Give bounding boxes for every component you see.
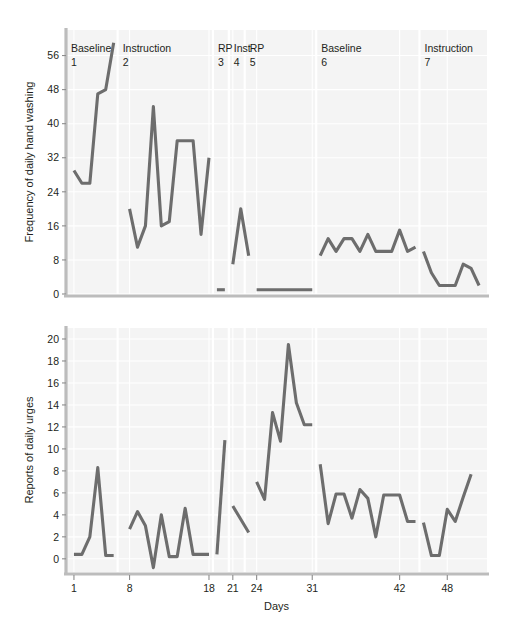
chart-panel-daily-urges: 02468101214161820Reports of daily urges1…	[23, 326, 489, 612]
phase-label-name: Baseline	[321, 42, 361, 54]
y-tick-label: 0	[53, 288, 59, 300]
y-tick-label: 10	[47, 443, 59, 455]
phase-label-number: 3	[218, 56, 224, 68]
y-axis-title: Reports of daily urges	[23, 396, 35, 503]
phase-label-name: Instruction	[424, 42, 473, 54]
chart-panel-hand-washing: 08162432404856Frequency of daily hand wa…	[23, 28, 489, 300]
x-tick-label: 24	[251, 582, 263, 594]
y-tick-label: 8	[53, 465, 59, 477]
phase-label-number: 7	[424, 56, 430, 68]
y-tick-label: 6	[53, 487, 59, 499]
y-tick-label: 14	[47, 399, 59, 411]
x-tick-label: 1	[71, 582, 77, 594]
phase-label-number: 6	[321, 56, 327, 68]
x-tick-label: 31	[306, 582, 318, 594]
y-tick-label: 8	[53, 254, 59, 266]
phase-label-name: RP	[250, 42, 265, 54]
y-tick-label: 16	[47, 377, 59, 389]
x-tick-label: 48	[441, 582, 453, 594]
y-tick-label: 48	[47, 83, 59, 95]
x-axis-title: Days	[264, 600, 290, 612]
y-tick-label: 40	[47, 117, 59, 129]
x-tick-label: 8	[127, 582, 133, 594]
charts-svg: 08162432404856Frequency of daily hand wa…	[0, 0, 506, 635]
y-tick-label: 16	[47, 220, 59, 232]
y-tick-label: 56	[47, 49, 59, 61]
y-tick-label: 32	[47, 151, 59, 163]
y-tick-label: 18	[47, 355, 59, 367]
y-tick-label: 2	[53, 531, 59, 543]
y-tick-label: 20	[47, 333, 59, 345]
phase-label-number: 1	[71, 56, 77, 68]
phase-label-name: Instruction	[123, 42, 172, 54]
x-tick-label: 42	[394, 582, 406, 594]
y-tick-label: 4	[53, 509, 59, 521]
y-axis-title: Frequency of daily hand washing	[23, 82, 35, 243]
x-tick-label: 18	[203, 582, 215, 594]
phase-label-name: RP	[218, 42, 233, 54]
y-tick-label: 24	[47, 186, 59, 198]
phase-label-name: Baseline	[71, 42, 111, 54]
phase-label-number: 2	[123, 56, 129, 68]
phase-label-number: 4	[234, 56, 240, 68]
phase-label-name: Inst	[234, 42, 251, 54]
x-tick-label: 21	[227, 582, 239, 594]
y-tick-label: 12	[47, 421, 59, 433]
y-tick-label: 0	[53, 553, 59, 565]
figure-container: 08162432404856Frequency of daily hand wa…	[0, 0, 506, 635]
phase-label-number: 5	[250, 56, 256, 68]
